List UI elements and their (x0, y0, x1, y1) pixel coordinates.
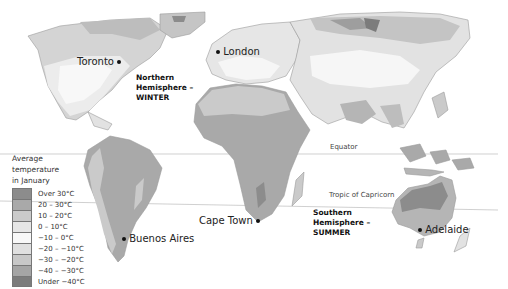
city-name: Adelaide (425, 224, 468, 235)
legend-label: −10 – 0°C (38, 234, 74, 242)
city-name: Buenos Aires (129, 233, 194, 244)
legend-swatch (12, 199, 32, 210)
temperature-legend: Average temperature in January Over 30°C… (12, 153, 85, 287)
legend-label: 20 – 30°C (38, 201, 72, 209)
legend-label: −30 – −20°C (38, 256, 84, 264)
city-cape-town: Cape Town (199, 215, 260, 226)
southern-hemisphere-line-3: SUMMER (313, 228, 370, 238)
legend-swatch (12, 265, 32, 276)
city-marker-icon (117, 60, 121, 64)
southern-hemisphere-note: Southern Hemisphere – SUMMER (313, 208, 370, 238)
legend-label: 10 – 20°C (38, 212, 72, 220)
legend-label: Over 30°C (38, 190, 74, 198)
city-london: London (216, 46, 260, 57)
city-marker-icon (122, 237, 126, 241)
equator-label: Equator (330, 143, 358, 151)
legend-title-line-2: temperature (12, 164, 85, 175)
northern-hemisphere-line-2: Hemisphere – (136, 83, 193, 93)
northern-hemisphere-line-3: WINTER (136, 93, 193, 103)
legend-item: −40 – −30°C (12, 265, 85, 276)
africa (194, 84, 310, 222)
legend-title: Average temperature in January (12, 153, 85, 186)
legend-item: −20 – −10°C (12, 243, 85, 254)
legend-item: 10 – 20°C (12, 210, 85, 221)
city-marker-icon (256, 219, 260, 223)
legend-swatch (12, 221, 32, 232)
legend-item: 20 – 30°C (12, 199, 85, 210)
city-toronto: Toronto (77, 56, 121, 67)
legend-swatch (12, 232, 32, 243)
legend-title-line-3: in January (12, 175, 85, 186)
australia (392, 176, 470, 252)
northern-hemisphere-line-1: Northern (136, 73, 193, 83)
legend-item: Over 30°C (12, 188, 85, 199)
legend-items: Over 30°C 20 – 30°C 10 – 20°C 0 – 10°C −… (12, 188, 85, 287)
southern-hemisphere-line-1: Southern (313, 208, 370, 218)
southeast-asia-islands (400, 144, 474, 176)
legend-label: 0 – 10°C (38, 223, 68, 231)
city-name: London (223, 46, 260, 57)
southern-hemisphere-line-2: Hemisphere – (313, 218, 370, 228)
legend-swatch (12, 188, 32, 199)
city-name: Cape Town (199, 215, 253, 226)
legend-swatch (12, 210, 32, 221)
legend-swatch (12, 276, 32, 287)
legend-item: −30 – −20°C (12, 254, 85, 265)
city-marker-icon (418, 228, 422, 232)
tropic-of-capricorn-label: Tropic of Capricorn (329, 191, 394, 199)
northern-hemisphere-note: Northern Hemisphere – WINTER (136, 73, 193, 103)
city-marker-icon (216, 50, 220, 54)
legend-swatch (12, 243, 32, 254)
legend-swatch (12, 254, 32, 265)
city-adelaide: Adelaide (418, 224, 469, 235)
north-america (28, 12, 205, 130)
city-buenos-aires: Buenos Aires (122, 233, 194, 244)
legend-label: −20 – −10°C (38, 245, 84, 253)
legend-label: −40 – −30°C (38, 267, 84, 275)
legend-item: −10 – 0°C (12, 232, 85, 243)
legend-item: Under −40°C (12, 276, 85, 287)
legend-item: 0 – 10°C (12, 221, 85, 232)
legend-label: Under −40°C (38, 278, 85, 286)
legend-title-line-1: Average (12, 153, 85, 164)
asia (290, 12, 470, 128)
city-name: Toronto (77, 56, 114, 67)
